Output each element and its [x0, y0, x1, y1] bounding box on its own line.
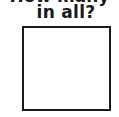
answer-box[interactable] [22, 26, 111, 111]
question-text: in all? [0, 2, 119, 22]
